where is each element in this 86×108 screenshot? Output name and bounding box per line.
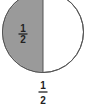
shaded-denominator: 2 — [20, 34, 26, 45]
shaded-numerator: 1 — [20, 23, 26, 34]
fraction-diagram: 1 2 1 2 — [0, 0, 86, 108]
caption-numerator: 1 — [40, 80, 46, 91]
caption-fraction-label: 1 2 — [39, 80, 48, 106]
caption-denominator: 2 — [40, 95, 46, 106]
